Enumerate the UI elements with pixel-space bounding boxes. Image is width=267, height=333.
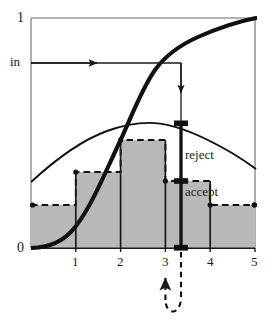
histogram-fill: [31, 140, 255, 248]
y-axis-label-one: 1: [17, 11, 24, 25]
region-label-accept: accept: [185, 185, 218, 198]
plot-canvas: [0, 0, 267, 333]
x-tick-label-2: 2: [117, 255, 124, 268]
region-label-reject: reject: [185, 148, 214, 161]
x-tick-label-1: 1: [72, 255, 79, 268]
y-axis-label-zero: 0: [17, 241, 24, 255]
statistics-figure: 1 in 0 reject accept 1 2 3 4 5: [0, 0, 267, 333]
x-tick-label-3: 3: [162, 255, 169, 268]
y-axis-label-in: in: [10, 55, 20, 68]
x-tick-label-5: 5: [251, 255, 258, 268]
x-tick-label-4: 4: [207, 255, 214, 268]
threshold-drop-arrow: [157, 63, 181, 93]
